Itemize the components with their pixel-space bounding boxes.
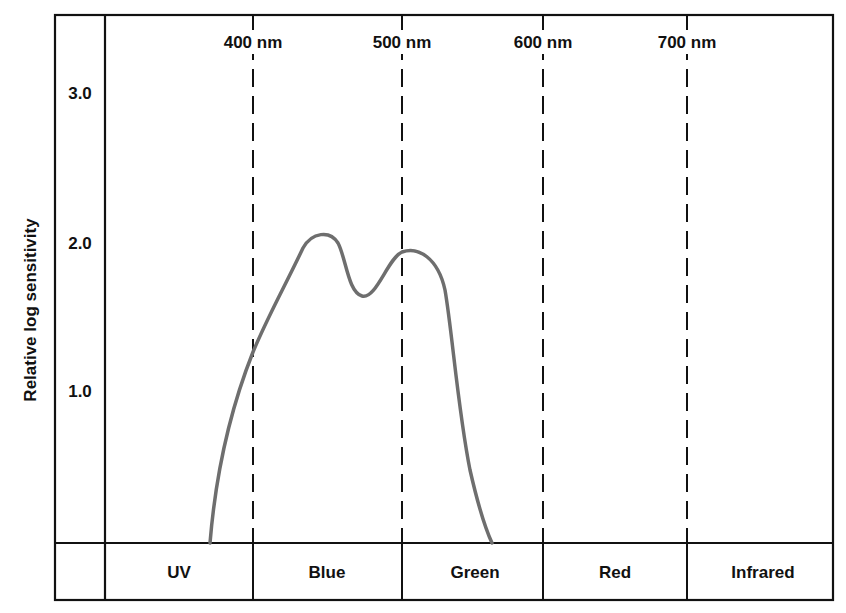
marker-label-400nm: 400 nm <box>224 33 283 52</box>
y-axis-title: Relative log sensitivity <box>21 218 40 402</box>
band-label-green: Green <box>450 563 499 582</box>
band-label-red: Red <box>599 563 631 582</box>
sensitivity-curve <box>210 234 492 543</box>
marker-label-600nm: 600 nm <box>514 33 573 52</box>
marker-label-500nm: 500 nm <box>373 33 432 52</box>
band-label-blue: Blue <box>309 563 346 582</box>
y-tick-1: 1.0 <box>68 382 92 401</box>
band-label-infrared: Infrared <box>731 563 794 582</box>
y-tick-2: 2.0 <box>68 234 92 253</box>
band-label-uv: UV <box>167 563 191 582</box>
marker-label-700nm: 700 nm <box>658 33 717 52</box>
y-tick-3: 3.0 <box>68 84 92 103</box>
chart-frame <box>55 15 833 600</box>
spectral-sensitivity-chart: 400 nm 500 nm 600 nm 700 nm 3.0 2.0 1.0 … <box>0 0 846 613</box>
